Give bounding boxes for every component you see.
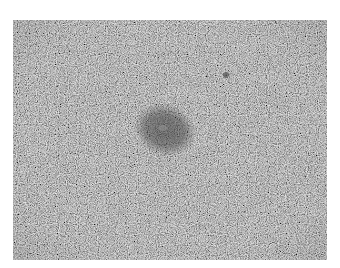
histology-micrograph <box>13 20 327 260</box>
tissue-texture <box>13 20 327 260</box>
